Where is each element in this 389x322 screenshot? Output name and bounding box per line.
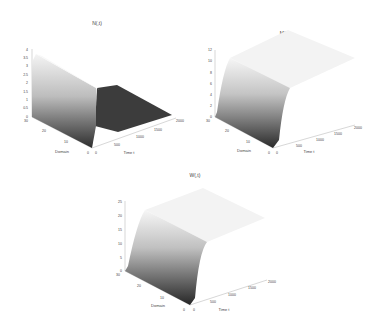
time-tick: 2000	[176, 119, 184, 123]
domain-tick: 0	[183, 308, 185, 312]
domain-tick: 0	[87, 151, 89, 155]
surface-plot-m-canvas: M(,t) 12 10 8 6 4 2 0 30 20 10 0 Domain …	[195, 0, 389, 160]
domain-tick: 0	[268, 151, 270, 155]
domain-tick: 20	[137, 284, 141, 288]
z-tick: 8	[210, 71, 212, 75]
z-tick: 10	[118, 242, 122, 246]
z-tick: 1.5	[23, 90, 28, 94]
z-tick: 25	[118, 200, 122, 204]
z-tick: 2	[26, 81, 28, 85]
z-tick: 2	[210, 104, 212, 108]
surface-plot-w: W(,t) 25 20 15 10 5 0 30 20 10 0 Domain …	[95, 160, 295, 322]
time-tick: 500	[210, 300, 216, 304]
plot-title: W(,t)	[190, 172, 201, 178]
surface-plot-w-canvas: W(,t) 25 20 15 10 5 0 30 20 10 0 Domain …	[95, 160, 295, 322]
time-axis-label: Time t	[304, 149, 316, 154]
domain-axis-label: Domain	[237, 148, 251, 153]
domain-tick: 10	[64, 140, 68, 144]
time-tick: 500	[114, 143, 120, 147]
domain-axis-label: Domain	[55, 149, 69, 154]
time-tick: 1500	[248, 286, 256, 290]
time-axis-label: Time t	[219, 307, 231, 312]
domain-tick: 30	[116, 273, 120, 277]
domain-tick: 10	[246, 140, 250, 144]
domain-axis-label: Domain	[151, 303, 165, 308]
z-tick: 2.5	[23, 73, 28, 77]
time-tick: 1000	[136, 135, 144, 139]
surface-high-region	[32, 54, 96, 148]
z-tick: 0	[120, 269, 122, 273]
z-tick: 10	[208, 59, 212, 63]
surface-plot-m: M(,t) 12 10 8 6 4 2 0 30 20 10 0 Domain …	[195, 0, 389, 160]
domain-tick: 30	[206, 119, 210, 123]
time-axis-label: Time t	[124, 150, 136, 155]
domain-tick: 20	[42, 129, 46, 133]
surface-low-region	[95, 85, 172, 132]
time-axis	[273, 125, 355, 148]
time-tick: 0	[193, 308, 195, 312]
domain-tick: 20	[225, 129, 229, 133]
time-tick: 1000	[316, 138, 324, 142]
surface-plot-n-canvas: N(,t) 4 3.5 3 2.5 2 1.5 1 0.5 0 30 20 10…	[0, 0, 195, 160]
time-tick: 2000	[354, 126, 362, 130]
z-tick: 1	[26, 98, 28, 102]
z-tick: 0	[210, 115, 212, 119]
domain-tick: 30	[24, 119, 28, 123]
time-tick: 0	[95, 151, 97, 155]
z-tick: 4	[210, 93, 212, 97]
z-tick: 6	[210, 82, 212, 86]
z-tick: 12	[208, 48, 212, 52]
z-tick: 3.5	[23, 56, 28, 60]
time-tick: 1500	[154, 128, 162, 132]
time-tick: 1000	[228, 293, 236, 297]
time-tick: 0	[276, 151, 278, 155]
domain-tick: 10	[160, 296, 164, 300]
z-tick: 15	[118, 228, 122, 232]
time-tick: 500	[296, 144, 302, 148]
z-tick: 4	[26, 48, 28, 52]
z-tick: 5	[120, 256, 122, 260]
z-tick: 20	[118, 214, 122, 218]
surface-plot-n: N(,t) 4 3.5 3 2.5 2 1.5 1 0.5 0 30 20 10…	[0, 0, 195, 160]
plot-title: N(,t)	[92, 20, 102, 26]
z-tick: 3	[26, 64, 28, 68]
time-tick: 2000	[268, 280, 276, 284]
z-tick: 0.5	[23, 106, 28, 110]
time-tick: 1500	[334, 132, 342, 136]
